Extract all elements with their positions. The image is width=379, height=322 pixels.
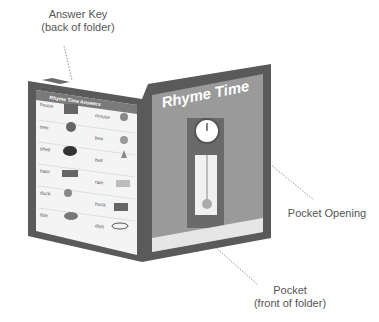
house-icon bbox=[64, 104, 78, 114]
train-icon bbox=[62, 170, 78, 177]
truck-icon bbox=[114, 203, 128, 211]
pocket-opening-leader bbox=[265, 160, 314, 200]
answer-key-leader bbox=[64, 46, 72, 80]
answer-left-2: shell bbox=[40, 145, 51, 152]
answer-left-1: tree bbox=[40, 123, 49, 130]
folder-illustration bbox=[0, 0, 379, 322]
answer-right-2: bell bbox=[95, 156, 104, 163]
tree-icon bbox=[66, 122, 76, 132]
answer-right-5: dish bbox=[95, 222, 105, 229]
answer-right-4: truck bbox=[95, 200, 107, 207]
answer-right-1: bee bbox=[95, 134, 104, 141]
duck-icon bbox=[64, 189, 72, 197]
pocket-leader bbox=[213, 245, 258, 285]
rain-icon bbox=[116, 180, 130, 187]
fish-icon bbox=[64, 212, 78, 220]
shell-icon bbox=[63, 146, 77, 156]
answer-left-3: train bbox=[40, 167, 50, 174]
mouse-icon bbox=[120, 113, 128, 121]
answer-left-4: duck bbox=[40, 189, 51, 196]
answer-right-3: rain bbox=[95, 178, 104, 185]
bee-icon bbox=[120, 136, 128, 144]
answer-left-5: fish bbox=[40, 211, 49, 218]
